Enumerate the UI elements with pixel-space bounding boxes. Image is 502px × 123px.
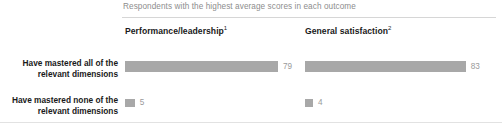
- bar-value-label: 5: [140, 97, 145, 108]
- bar: [305, 99, 313, 107]
- bar: [125, 61, 278, 72]
- chart-container: Respondents with the highest average sco…: [0, 0, 502, 123]
- bar: [305, 61, 466, 72]
- column-header-general-satisfaction: General satisfaction2: [305, 26, 391, 36]
- column-header-performance-leadership: Performance/leadership1: [125, 26, 227, 36]
- bar-value-label: 4: [318, 97, 323, 108]
- row-label-mastered-all: Have mastered all of the relevant dimens…: [6, 58, 118, 79]
- bar-value-label: 79: [283, 61, 292, 72]
- bar-value-label: 83: [471, 61, 480, 72]
- bottom-divider: [0, 122, 502, 123]
- row-label-mastered-none: Have mastered none of the relevant dimen…: [6, 95, 118, 116]
- bar: [125, 99, 135, 107]
- column-header-label: General satisfaction: [305, 26, 388, 36]
- footnote-marker: 2: [388, 25, 391, 31]
- chart-subtitle: Respondents with the highest average sco…: [123, 2, 356, 11]
- header-divider: [122, 17, 496, 18]
- column-header-label: Performance/leadership: [125, 26, 224, 36]
- footnote-marker: 1: [224, 25, 227, 31]
